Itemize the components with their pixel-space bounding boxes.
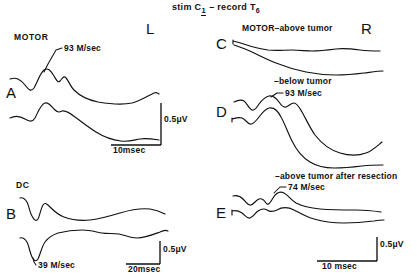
- evoked-potential-figure: stim C1 – record T6 L R MOTOR 93 M/sec A…: [0, 0, 417, 279]
- panel-b-trace-upper: [20, 198, 165, 221]
- trace-canvas: [0, 0, 417, 279]
- panel-d-trace-lower: [232, 108, 383, 168]
- panel-a-trace-lower: [10, 103, 159, 141]
- scalebar-e: [317, 237, 377, 261]
- panel-c-trace-upper: [233, 40, 380, 51]
- panel-d-trace-upper: [234, 96, 382, 155]
- scalebar-b: [126, 241, 160, 264]
- panel-e-trace-upper: [233, 192, 381, 212]
- panel-b-leader-line: [33, 258, 36, 265]
- panel-a-trace-upper: [10, 69, 159, 104]
- panel-b-trace-lower: [20, 230, 168, 261]
